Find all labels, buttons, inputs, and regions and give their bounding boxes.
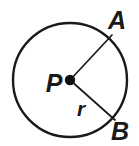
center-point-dot xyxy=(65,75,75,85)
circle-diagram-canvas: P A B r xyxy=(0,0,139,146)
label-point-b: B xyxy=(111,117,129,145)
label-point-a: A xyxy=(107,6,126,34)
label-center-p: P xyxy=(46,69,63,97)
geometry-figure: P A B r xyxy=(0,0,139,146)
